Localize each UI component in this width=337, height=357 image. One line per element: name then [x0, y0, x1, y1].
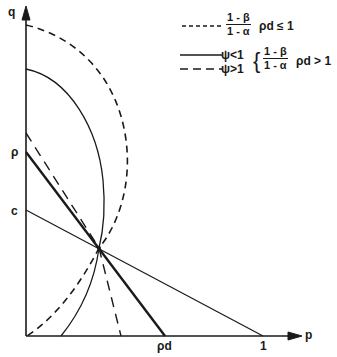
x-tick-1: 1 [260, 340, 267, 352]
y-tick-c: c [11, 205, 18, 217]
line-rho-to-rhod [26, 152, 165, 336]
legend2-denominator: 1 - α [264, 59, 287, 71]
legend1-fraction: 1 - β 1 - α [226, 12, 251, 37]
legend2-numerator: 1 - β [263, 46, 288, 59]
x-axis-arrow-icon [288, 332, 302, 340]
legend2-condition: ρd > 1 [296, 55, 331, 67]
curve-short-dashed-outer [26, 25, 127, 336]
y-axis-arrow-icon [22, 6, 30, 20]
curve-dashed-psi-gt-1 [26, 133, 121, 336]
x-axis-label: p [305, 329, 312, 341]
y-tick-rho: ρ [11, 146, 18, 158]
legend2-brace: { [253, 50, 260, 72]
legend2-dashed-label: ψ>1 [221, 63, 244, 75]
legend2-solid-label: ψ<1 [221, 49, 244, 61]
legend2-fraction: 1 - β 1 - α [263, 46, 288, 71]
legend1-numerator: 1 - β [226, 12, 251, 25]
intersection-point [97, 246, 101, 250]
legend1-condition: ρd ≤ 1 [259, 20, 294, 32]
legend1-denominator: 1 - α [227, 25, 250, 37]
line-c-to-1 [26, 210, 263, 336]
y-axis-label: q [8, 6, 15, 18]
x-tick-rhod: ρd [157, 340, 172, 352]
